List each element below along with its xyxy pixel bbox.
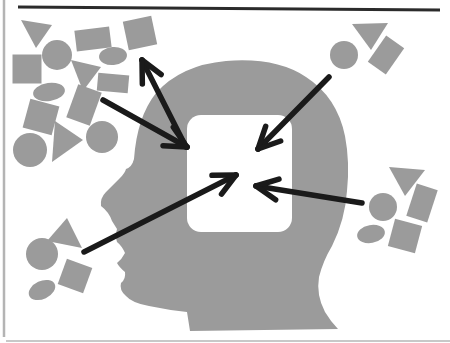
top-right-circle-shape [330,41,358,69]
top-left-triangle-shape [52,121,83,162]
top-left-square-shape [123,16,157,50]
top-left-triangle-shape [71,60,101,91]
cluster-top-left [13,16,158,167]
right-circle-shape [369,193,397,221]
right-square-shape [388,219,422,253]
bottom-left-square-shape [58,259,93,294]
bottom-left-circle-shape [26,238,58,270]
bottom-left-oval-shape [26,276,59,304]
top-left-circle-shape [86,121,118,153]
top-left-rectangle-shape [66,84,101,125]
page [0,0,450,343]
top-left-oval-shape [98,46,127,66]
cluster-right [356,167,438,253]
top-left-rectangle-shape [74,26,111,51]
top-left-oval-shape [32,81,66,103]
mind-perception-diagram [0,0,450,343]
cluster-bottom-left [26,218,93,304]
right-oval-shape [356,223,387,246]
right-rectangle-shape [406,183,437,222]
cluster-top-right [330,23,404,74]
top-left-rectangle-shape [97,73,129,94]
top-border-line [18,7,440,10]
top-left-circle-shape [42,40,72,70]
top-left-circle-shape [13,133,47,167]
top-left-square-shape [23,99,60,136]
top-left-square-shape [13,55,42,84]
